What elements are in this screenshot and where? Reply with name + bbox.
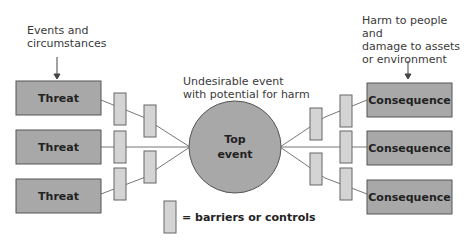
top-event-line: event — [217, 147, 252, 162]
consequence-label: Consequence — [367, 131, 452, 165]
annotation-line: Undesirable event — [183, 75, 310, 88]
annotation-line: Harm to people and — [362, 14, 469, 40]
annotation-line: damage to assets — [362, 40, 469, 53]
threat-label: Threat — [16, 179, 101, 213]
annotation-line: Events and — [27, 24, 106, 37]
annotation-harm: Harm to people and damage to assets or e… — [362, 14, 469, 66]
annotation-line: or environment — [362, 53, 469, 66]
annotation-line: with potential for harm — [183, 88, 310, 101]
threat-label: Threat — [16, 81, 101, 115]
consequence-label: Consequence — [367, 83, 452, 117]
top-event-label: Top event — [195, 130, 275, 164]
consequence-label: Consequence — [367, 180, 452, 214]
threat-label: Threat — [16, 130, 101, 164]
top-event-line: Top — [224, 132, 245, 147]
annotation-events: Events and circumstances — [27, 24, 106, 50]
legend-barrier-swatch — [164, 201, 176, 233]
legend-label: = barriers or controls — [182, 211, 316, 224]
annotation-line: circumstances — [27, 37, 106, 50]
annotation-undesirable: Undesirable event with potential for har… — [183, 75, 310, 101]
